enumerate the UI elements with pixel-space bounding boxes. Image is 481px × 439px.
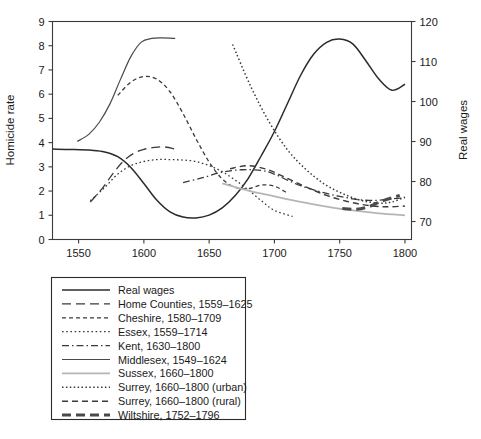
y-tick-label-left: 1 <box>38 209 44 221</box>
legend-label-7: Surrey, 1660–1800 (urban) <box>118 381 247 393</box>
legend-label-5: Middlesex, 1549–1624 <box>118 354 227 366</box>
x-tick-label: 1800 <box>393 247 417 259</box>
legend-label-1: Home Counties, 1559–1625 <box>118 298 252 310</box>
legend-label-4: Kent, 1630–1800 <box>118 340 200 352</box>
legend-label-0: Real wages <box>118 284 175 296</box>
legend-label-8: Surrey, 1660–1800 (rural) <box>118 395 241 407</box>
y-tick-label-right: 120 <box>420 16 438 28</box>
y-axis-left-title: Homicide rate <box>4 95 16 166</box>
x-tick-label: 1700 <box>262 247 286 259</box>
x-tick-label: 1750 <box>327 247 351 259</box>
y-tick-label-left: 4 <box>38 137 44 149</box>
y-tick-label-left: 0 <box>38 234 44 246</box>
y-tick-label-left: 5 <box>38 112 44 124</box>
x-tick-label: 1550 <box>66 247 90 259</box>
y-tick-label-left: 9 <box>38 16 44 28</box>
y-tick-label-left: 6 <box>38 88 44 100</box>
y-tick-label-left: 3 <box>38 161 44 173</box>
y-tick-label-right: 100 <box>420 96 438 108</box>
legend-label-9: Wiltshire, 1752–1796 <box>118 409 219 421</box>
y-tick-label-right: 90 <box>420 136 432 148</box>
y-tick-label-right: 70 <box>420 216 432 228</box>
homicide-rate-real-wages-figure: 0123456789 708090100110120 1550160016501… <box>0 0 481 439</box>
y-tick-label-right: 80 <box>420 176 432 188</box>
y-tick-label-left: 8 <box>38 40 44 52</box>
x-tick-label: 1600 <box>132 247 156 259</box>
y-tick-label-left: 7 <box>38 64 44 76</box>
y-tick-label-right: 110 <box>420 56 438 68</box>
y-axis-right-title: Real wages <box>457 100 469 160</box>
y-tick-label-left: 2 <box>38 185 44 197</box>
legend-label-2: Cheshire, 1580–1709 <box>118 312 221 324</box>
x-tick-label: 1650 <box>197 247 221 259</box>
legend-label-3: Essex, 1559–1714 <box>118 326 207 338</box>
legend-label-6: Sussex, 1660–1800 <box>118 367 213 379</box>
